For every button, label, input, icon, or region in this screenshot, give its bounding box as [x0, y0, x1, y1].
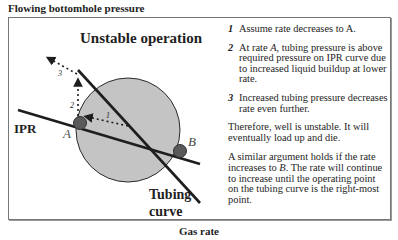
x-axis-label: Gas rate [0, 225, 398, 237]
conclusion-text: Therefore, well is unstable. It will eve… [228, 122, 388, 143]
step-text-part: At rate [239, 42, 270, 53]
step-1-marker: 1 [106, 111, 110, 120]
point-b-label: B [188, 134, 196, 150]
point-b-marker [174, 145, 187, 158]
step-3-arrow [50, 59, 77, 74]
diagram-title: Unstable operation [80, 30, 202, 47]
note-step-1: 1 Assume rate decreases to A. [228, 24, 388, 35]
step-text: At rate A, tubing pressure is above requ… [239, 43, 388, 85]
step-text: Assume rate decreases to A. [239, 24, 356, 35]
step-number: 3 [228, 93, 239, 114]
note-step-2: 2 At rate A, tubing pressure is above re… [228, 43, 388, 85]
note-step-3: 3 Increased tubing pressure decreases ra… [228, 93, 388, 114]
step-number: 1 [228, 24, 239, 35]
similar-argument-text: A similar argument holds if the rate inc… [228, 152, 388, 205]
point-a-label: A [63, 126, 71, 142]
point-a-marker [74, 117, 87, 130]
tubing-label-line1: Tubing [149, 186, 191, 203]
tubing-curve-label: Tubing curve [149, 186, 191, 220]
tubing-label-line2: curve [149, 203, 191, 220]
step-text: Increased tubing pressure decreases rate… [239, 93, 388, 114]
operating-region-circle [76, 78, 180, 182]
explanation-notes: 1 Assume rate decreases to A. 2 At rate … [228, 24, 388, 214]
step-2-marker: 2 [70, 101, 74, 110]
step-3-marker: 3 [58, 69, 62, 78]
ipr-label: IPR [14, 121, 36, 137]
step-number: 2 [228, 43, 239, 85]
